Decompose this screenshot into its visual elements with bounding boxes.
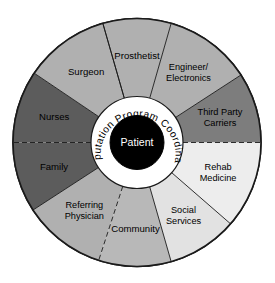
- amputation-team-wheel-figure: Amputation Program Coordinator Patient P…: [0, 0, 275, 283]
- wheel-svg: Amputation Program Coordinator Patient P…: [0, 0, 275, 283]
- segment-label: RehabMedicine: [200, 162, 237, 183]
- segment-label: Engineer/Electronics: [166, 62, 211, 83]
- segment-label: Third PartyCarriers: [198, 107, 243, 128]
- segment-label: Prosthetist: [114, 49, 160, 60]
- segment-label: Surgeon: [68, 66, 104, 77]
- segment-label: Community: [111, 223, 160, 234]
- segment-label: Family: [40, 161, 68, 172]
- segment-label: Nurses: [39, 111, 70, 122]
- patient-core-label: Patient: [121, 136, 154, 148]
- segment-label: ReferringPhysician: [65, 201, 104, 222]
